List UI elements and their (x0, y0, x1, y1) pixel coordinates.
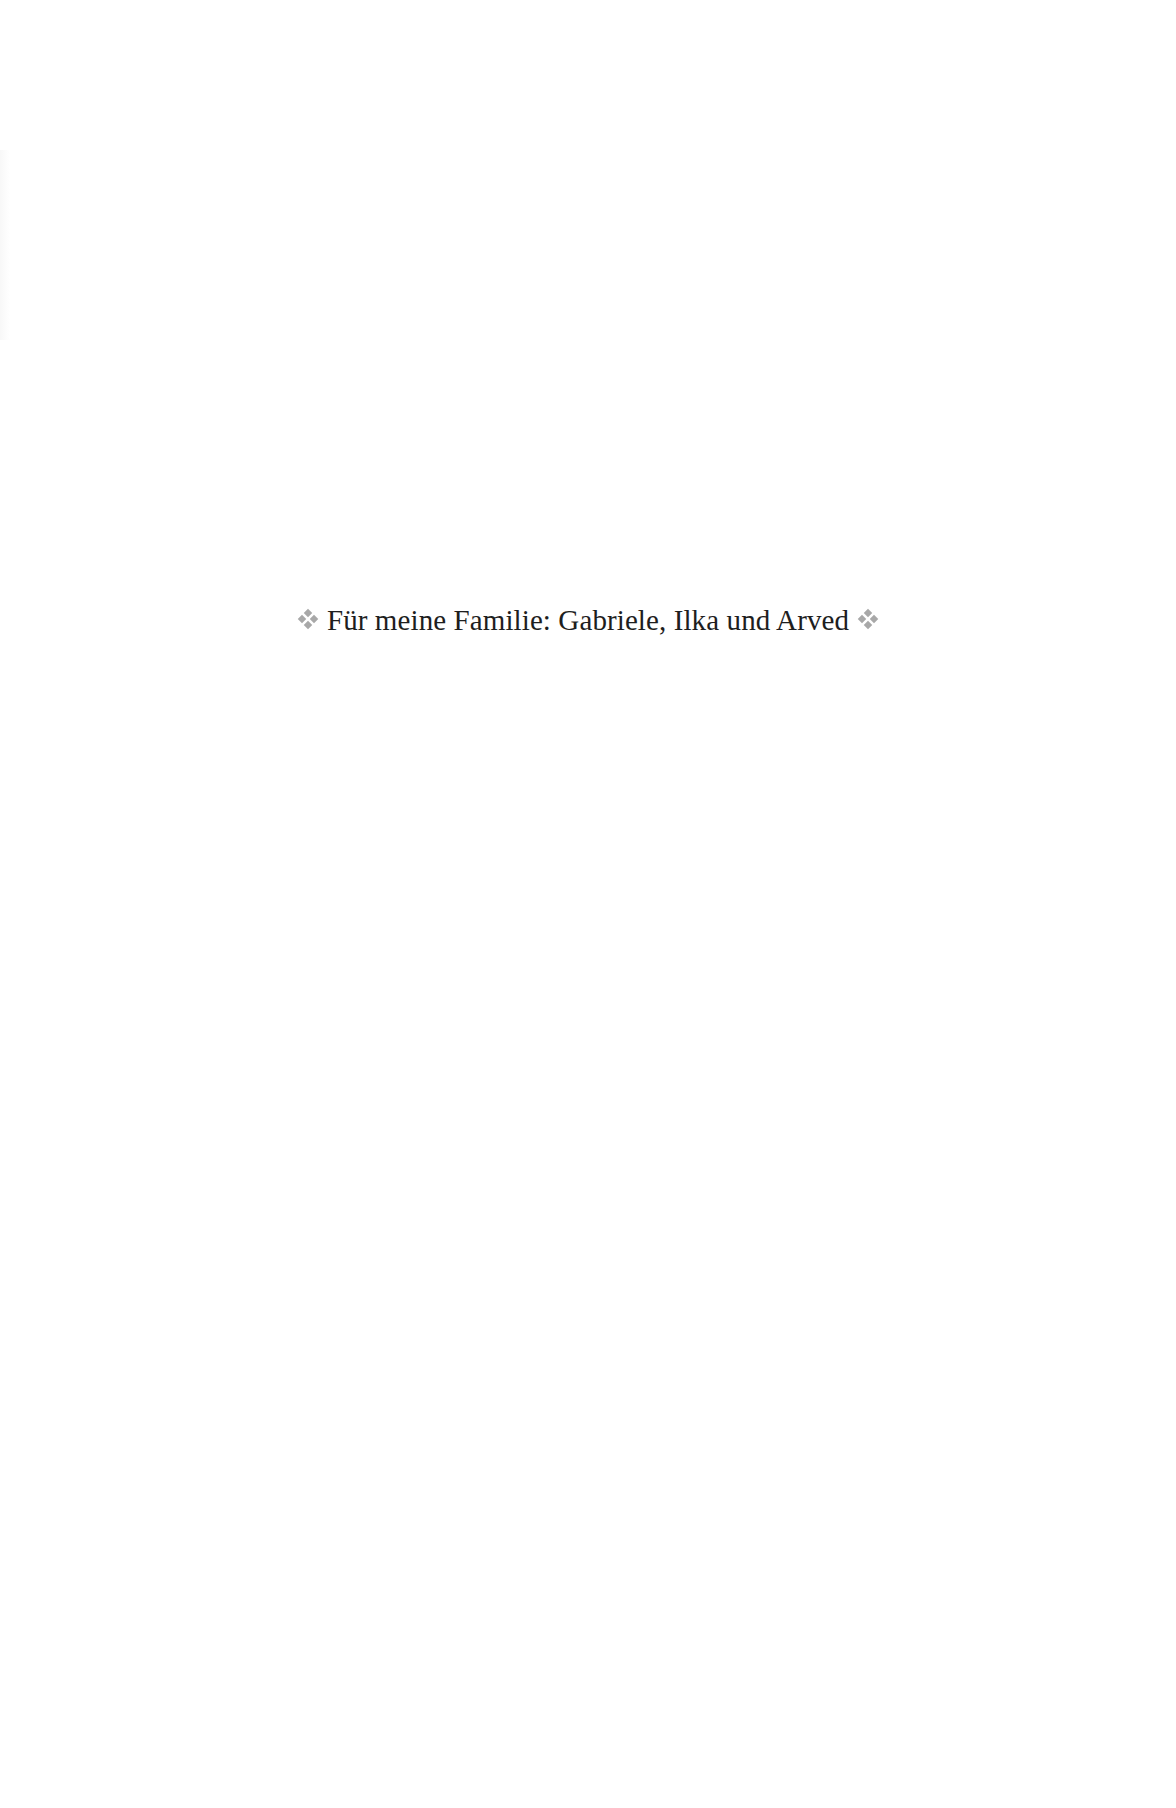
dedication-text: Für meine Familie: Gabriele, Ilka und Ar… (327, 604, 849, 636)
four-diamond-ornament-icon (299, 610, 317, 628)
book-page: Für meine Familie: Gabriele, Ilka und Ar… (0, 0, 1176, 1808)
dedication-line: Für meine Familie: Gabriele, Ilka und Ar… (0, 598, 1176, 642)
four-diamond-ornament-icon (859, 610, 877, 628)
scan-edge-shadow (0, 150, 10, 340)
